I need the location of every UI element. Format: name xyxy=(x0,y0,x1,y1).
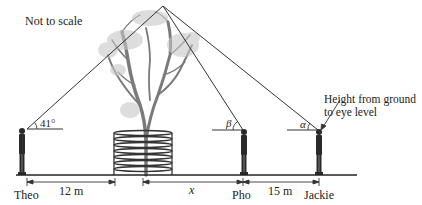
dimension-12m: 12 m xyxy=(59,185,83,197)
angle-theo-label: 41° xyxy=(40,118,55,129)
note-not-to-scale: Not to scale xyxy=(25,15,82,27)
label-jackie: Jackie xyxy=(304,189,334,201)
dimension-x: x xyxy=(189,184,194,196)
eye-level-lines xyxy=(27,129,318,130)
angle-arcs xyxy=(35,122,311,130)
label-theo: Theo xyxy=(14,189,39,201)
callout-eye-height: Height from ground to eye level xyxy=(324,93,422,119)
angle-beta-label: β xyxy=(226,118,231,129)
label-pho: Pho xyxy=(232,189,251,201)
trig-diagram: Not to scale 41° β α Height from ground … xyxy=(0,0,422,205)
person-theo-icon xyxy=(18,128,26,175)
person-jackie-icon xyxy=(315,129,323,175)
angle-alpha-label: α xyxy=(300,119,306,130)
person-pho-icon xyxy=(240,129,248,175)
dimension-15m: 15 m xyxy=(268,185,292,197)
planter xyxy=(114,131,172,176)
